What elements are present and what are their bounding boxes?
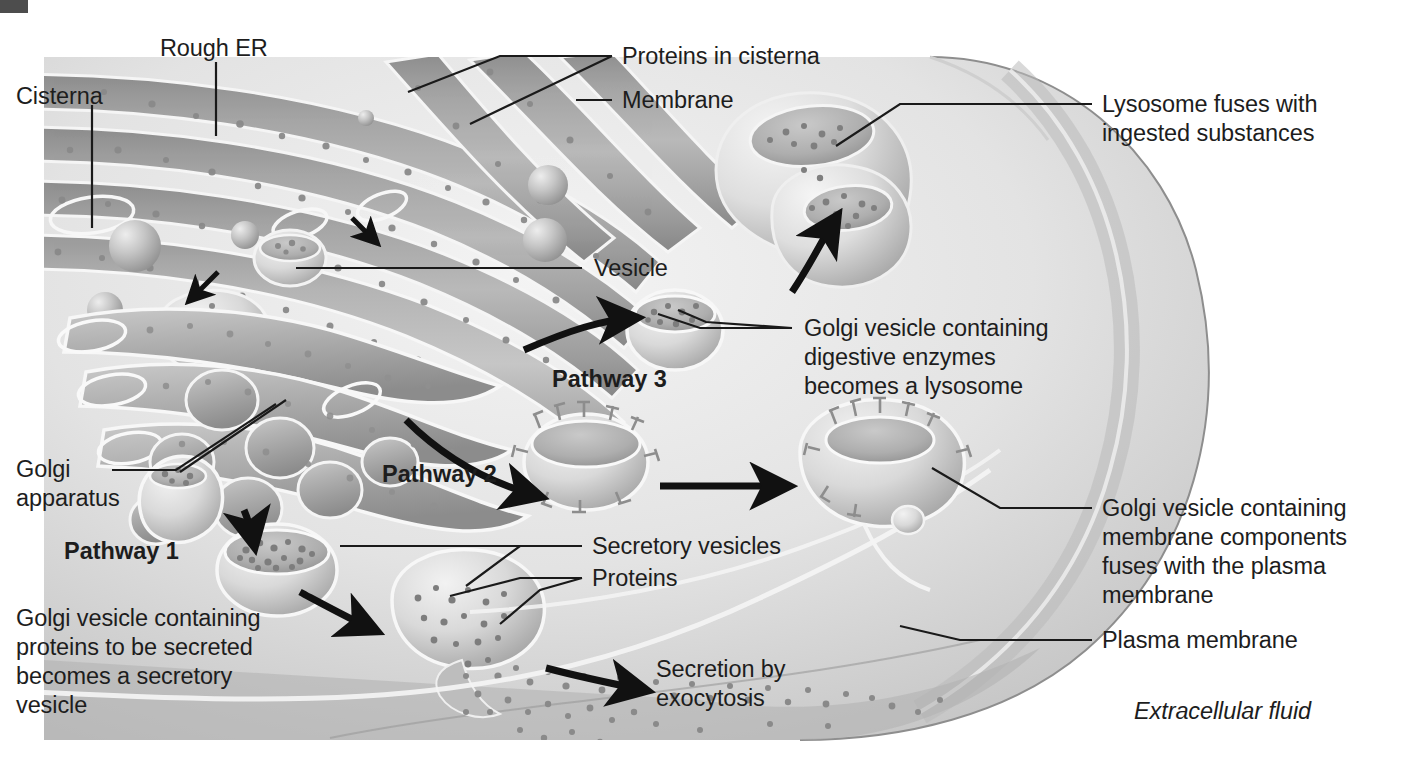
label-membrane-comp-line2: membrane components	[1102, 523, 1347, 552]
transport-vesicle	[254, 230, 326, 286]
label-lysosome-fuses-line2: ingested substances	[1102, 119, 1314, 148]
label-secretory-vesicles: Secretory vesicles	[592, 532, 781, 561]
label-extracellular-fluid: Extracellular fluid	[1134, 697, 1311, 726]
label-proteins-in-cisterna: Proteins in cisterna	[622, 42, 820, 71]
label-secreted-line2: proteins to be secreted	[16, 633, 253, 662]
label-cisterna: Cisterna	[16, 82, 103, 111]
label-secretion-line2: exocytosis	[656, 684, 765, 713]
label-proteins: Proteins	[592, 564, 677, 593]
label-membrane-comp-line3: fuses with the plasma	[1102, 552, 1326, 581]
free-ribosome	[358, 110, 374, 126]
label-vesicle: Vesicle	[594, 254, 668, 283]
label-rough-er: Rough ER	[160, 34, 268, 63]
label-plasma-membrane: Plasma membrane	[1102, 626, 1298, 655]
label-membrane: Membrane	[622, 86, 734, 115]
label-pathway-2: Pathway 2	[382, 460, 497, 489]
free-ribosome	[231, 221, 259, 249]
figure-canvas: Cisterna Rough ER Proteins in cisterna M…	[0, 0, 1419, 781]
label-membrane-comp-line4: membrane	[1102, 581, 1214, 610]
label-secretion-line1: Secretion by	[656, 655, 785, 684]
label-digestive-line1: Golgi vesicle containing	[804, 314, 1049, 343]
free-ribosome	[523, 218, 567, 262]
label-secreted-line1: Golgi vesicle containing	[16, 604, 261, 633]
label-digestive-line3: becomes a lysosome	[804, 372, 1023, 401]
golgi-vesicle-digestive-enzymes	[627, 290, 723, 370]
label-lysosome-fuses-line1: Lysosome fuses with	[1102, 90, 1317, 119]
free-ribosome	[528, 165, 568, 205]
label-secreted-line3: becomes a secretory	[16, 662, 232, 691]
label-membrane-comp-line1: Golgi vesicle containing	[1102, 494, 1347, 523]
free-ribosome	[109, 220, 161, 272]
label-golgi-apparatus-line2: apparatus	[16, 484, 120, 513]
label-digestive-line2: digestive enzymes	[804, 343, 996, 372]
label-pathway-3: Pathway 3	[552, 365, 667, 394]
label-secreted-line4: vesicle	[16, 691, 87, 720]
label-golgi-apparatus-line1: Golgi	[16, 455, 70, 484]
label-pathway-1: Pathway 1	[64, 537, 179, 566]
